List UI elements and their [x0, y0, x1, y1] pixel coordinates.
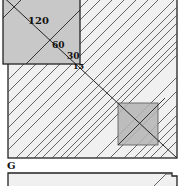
scale-label-30: 30 — [67, 51, 80, 61]
scale-label-60: 60 — [52, 40, 65, 50]
scale-label-120: 120 — [28, 15, 49, 26]
lower-panel — [8, 173, 177, 186]
figure-panel: 120 60 30 15 G — [0, 0, 180, 186]
scale-label-15: 15 — [73, 61, 84, 71]
panel-label: G — [7, 160, 16, 171]
